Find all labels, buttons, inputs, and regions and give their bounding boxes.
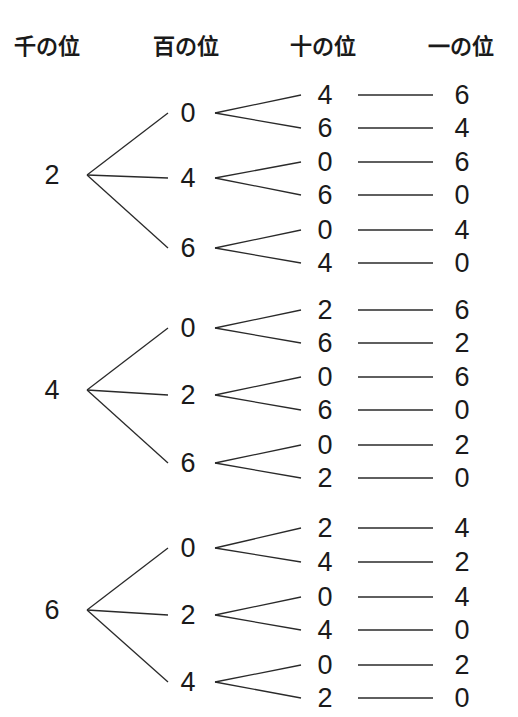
tens-digit: 0 (317, 217, 332, 244)
ones-digit: 0 (454, 685, 469, 712)
tens-digit: 4 (317, 617, 332, 644)
hundreds-digit: 6 (180, 450, 195, 477)
branch-line (215, 615, 301, 630)
branch-line (215, 597, 301, 615)
branch-line (87, 390, 168, 395)
branch-line (215, 310, 301, 328)
branch-line (215, 682, 301, 698)
ones-digit: 0 (454, 397, 469, 424)
tens-digit: 0 (317, 364, 332, 391)
branch-line (215, 463, 301, 478)
tens-digit: 2 (317, 515, 332, 542)
ones-digit: 2 (454, 330, 469, 357)
ones-digit: 6 (454, 149, 469, 176)
branch-line (87, 328, 168, 390)
ones-digit: 2 (454, 432, 469, 459)
ones-digit: 6 (454, 297, 469, 324)
thousands-digit: 6 (44, 597, 59, 624)
branch-line (215, 95, 301, 113)
hundreds-digit: 2 (180, 382, 195, 409)
branch-line (87, 390, 168, 463)
ones-digit: 4 (454, 515, 469, 542)
ones-digit: 2 (454, 652, 469, 679)
branch-line (87, 548, 168, 610)
hundreds-digit: 0 (180, 315, 195, 342)
tens-digit: 0 (317, 584, 332, 611)
hundreds-digit: 4 (180, 165, 195, 192)
branch-line (215, 377, 301, 395)
branch-line (87, 175, 168, 178)
ones-digit: 6 (454, 82, 469, 109)
hundreds-digit: 6 (180, 235, 195, 262)
tens-digit: 0 (317, 149, 332, 176)
tens-digit: 2 (317, 685, 332, 712)
tens-digit: 4 (317, 250, 332, 277)
hundreds-digit: 2 (180, 602, 195, 629)
ones-digit: 0 (454, 465, 469, 492)
ones-digit: 2 (454, 549, 469, 576)
ones-digit: 0 (454, 182, 469, 209)
branch-line (87, 113, 168, 175)
branch-line (215, 445, 301, 463)
branch-line (215, 395, 301, 410)
tens-digit: 4 (317, 549, 332, 576)
ones-digit: 4 (454, 584, 469, 611)
branch-line (215, 248, 301, 263)
tens-digit: 0 (317, 652, 332, 679)
hundreds-digit: 0 (180, 535, 195, 562)
tens-digit: 2 (317, 297, 332, 324)
ones-digit: 0 (454, 250, 469, 277)
ones-digit: 6 (454, 364, 469, 391)
branch-line (215, 665, 301, 682)
tens-digit: 6 (317, 330, 332, 357)
tens-digit: 6 (317, 115, 332, 142)
tens-digit: 0 (317, 432, 332, 459)
ones-digit: 0 (454, 617, 469, 644)
branch-line (215, 162, 301, 178)
branch-line (87, 175, 168, 248)
branch-line (215, 230, 301, 248)
ones-digit: 4 (454, 115, 469, 142)
branch-line (215, 548, 301, 562)
tree-lines (0, 0, 518, 717)
tens-digit: 6 (317, 397, 332, 424)
hundreds-digit: 4 (180, 669, 195, 696)
thousands-digit: 4 (44, 377, 59, 404)
branch-line (215, 328, 301, 343)
branch-line (87, 610, 168, 682)
hundreds-digit: 0 (180, 100, 195, 127)
tens-digit: 6 (317, 182, 332, 209)
ones-digit: 4 (454, 217, 469, 244)
branch-line (87, 610, 168, 615)
branch-line (215, 178, 301, 195)
branch-line (215, 113, 301, 128)
tens-digit: 4 (317, 82, 332, 109)
branch-line (215, 528, 301, 548)
tens-digit: 2 (317, 465, 332, 492)
thousands-digit: 2 (44, 162, 59, 189)
